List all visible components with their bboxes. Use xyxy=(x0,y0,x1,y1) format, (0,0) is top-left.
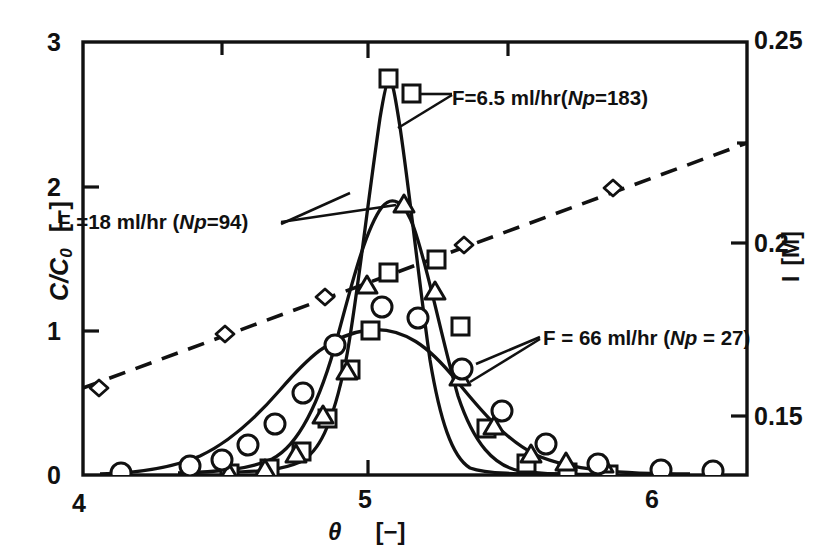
marker-circle xyxy=(238,435,258,455)
marker-circle xyxy=(265,414,285,434)
x-axis-unit: [−] xyxy=(375,518,405,545)
marker-circle xyxy=(325,335,345,355)
marker-square xyxy=(380,70,397,87)
leader-triangle-b xyxy=(281,193,350,224)
x-axis-title: θ[−] xyxy=(328,518,405,546)
curve-circle-66 xyxy=(100,330,690,474)
y-axis-right-title: I[M] xyxy=(778,197,805,317)
marker-circle xyxy=(452,359,472,379)
marker-circle xyxy=(212,450,232,470)
annotation-square-text1: F=6.5 ml/hr( xyxy=(452,86,568,109)
annotation-circle-text2: = 27) xyxy=(697,326,750,349)
annotation-circle-np: Np xyxy=(670,326,697,349)
yrtick-label-0p25: 0.25 xyxy=(754,26,803,55)
annotation-square-text2: =183) xyxy=(595,86,648,109)
leader-circle-b xyxy=(470,339,540,382)
xtick-label-4: 4 xyxy=(72,489,86,518)
marker-square xyxy=(428,251,445,268)
annotation-triangle-text2: =94) xyxy=(207,210,249,233)
marker-diamond xyxy=(90,380,108,396)
marker-diamond xyxy=(316,289,334,305)
marker-square xyxy=(403,85,420,102)
annotation-series-square: F=6.5 ml/hr(Np=183) xyxy=(452,86,648,110)
marker-circle xyxy=(111,463,131,483)
marker-circle xyxy=(372,297,392,317)
marker-circle xyxy=(293,383,313,403)
marker-triangle xyxy=(425,282,445,299)
y-axis-right-unit: [M] xyxy=(778,231,804,265)
figure-root: 3 2 1 0 4 5 6 0.25 0.2 0.15 C/C0[−] I[M]… xyxy=(0,0,832,558)
marker-square xyxy=(380,264,397,281)
x-axis-symbol: θ xyxy=(328,518,341,545)
marker-circle xyxy=(492,401,512,421)
marker-square xyxy=(452,318,469,335)
annotation-triangle-np: Np xyxy=(179,210,206,233)
ytick-label-0: 0 xyxy=(47,461,61,490)
annotation-circle-text1: F = 66 ml/hr ( xyxy=(543,326,670,349)
marker-circle xyxy=(408,308,428,328)
marker-diamond xyxy=(604,180,622,196)
y-axis-right-symbol: I xyxy=(778,276,804,282)
chart-canvas xyxy=(0,0,832,558)
annotation-square-np: Np xyxy=(568,86,595,109)
annotation-triangle-text1: F =18 ml/hr ( xyxy=(58,210,179,233)
marker-circle xyxy=(588,454,608,474)
xtick-label-6: 6 xyxy=(645,485,659,514)
y-axis-left-symbol: C/C xyxy=(45,258,73,301)
marker-circle xyxy=(180,456,200,476)
marker-circle xyxy=(703,461,723,481)
marker-circle xyxy=(651,460,671,480)
yrtick-label-0p15: 0.15 xyxy=(754,402,803,431)
marker-square xyxy=(362,322,379,339)
xtick-label-5: 5 xyxy=(358,485,372,514)
marker-circle xyxy=(536,434,556,454)
annotation-series-triangle: F =18 ml/hr (Np=94) xyxy=(58,210,248,234)
series-ionic-strength-line xyxy=(83,143,747,388)
y-axis-left-title: C/C0[−] xyxy=(45,166,77,336)
ytick-label-3: 3 xyxy=(47,28,61,57)
y-axis-left-subscript: 0 xyxy=(57,248,76,257)
annotation-series-circle: F = 66 ml/hr (Np = 27) xyxy=(543,326,750,350)
